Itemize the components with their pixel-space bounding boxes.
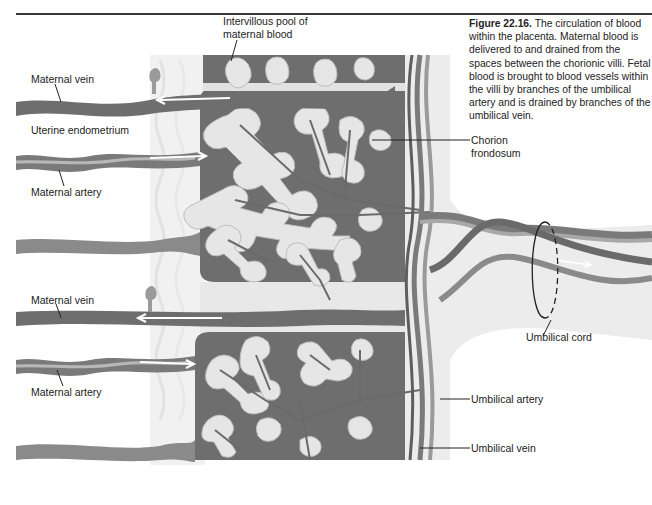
label-umbilical-vein: Umbilical vein: [471, 442, 536, 455]
label-intervillous-pool-line2: maternal blood: [223, 28, 308, 41]
label-maternal-artery-bottom: Maternal artery: [31, 386, 102, 399]
label-umbilical-artery: Umbilical artery: [471, 393, 543, 406]
label-chorion-frondosum-line1: Chorion: [471, 134, 521, 147]
label-maternal-vein-top: Maternal vein: [31, 73, 94, 86]
label-umbilical-cord: Umbilical cord: [526, 331, 592, 344]
label-uterine-endometrium: Uterine endometrium: [31, 124, 129, 137]
label-chorion-frondosum-line2: frondosum: [471, 147, 521, 160]
placenta-circulation-illustration: [0, 0, 652, 505]
label-maternal-vein-bottom: Maternal vein: [31, 294, 94, 307]
label-maternal-artery-top: Maternal artery: [31, 186, 102, 199]
label-chorion-frondosum: Chorion frondosum: [471, 134, 521, 159]
label-intervillous-pool: Intervillous pool of maternal blood: [223, 15, 308, 40]
label-intervillous-pool-line1: Intervillous pool of: [223, 15, 308, 28]
